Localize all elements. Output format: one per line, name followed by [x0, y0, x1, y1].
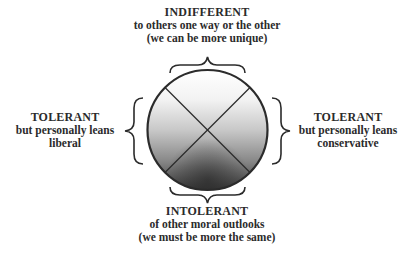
indifferent-line-2: (we can be more unique) [107, 32, 307, 45]
intolerant-line-2: (we must be more the same) [107, 231, 307, 244]
indifferent-line-1: to others one way or the other [107, 19, 307, 32]
indifferent-title: INDIFFERENT [107, 6, 307, 19]
tolerant-liberal-label: TOLERANT but personally leans liberal [0, 111, 130, 150]
tolerant-conservative-line-2: conservative [282, 137, 414, 150]
intolerant-label: INTOLERANT of other moral outlooks (we m… [107, 205, 307, 244]
intolerant-title: INTOLERANT [107, 205, 307, 218]
tolerant-conservative-line-1: but personally leans [282, 124, 414, 137]
tolerant-liberal-line-2: liberal [0, 137, 130, 150]
tolerant-liberal-title: TOLERANT [0, 111, 130, 124]
tolerant-conservative-title: TOLERANT [282, 111, 414, 124]
tolerant-conservative-label: TOLERANT but personally leans conservati… [282, 111, 414, 150]
tolerant-liberal-line-1: but personally leans [0, 124, 130, 137]
indifferent-label: INDIFFERENT to others one way or the oth… [107, 6, 307, 45]
quadrant-circle [148, 70, 268, 190]
intolerant-line-1: of other moral outlooks [107, 218, 307, 231]
